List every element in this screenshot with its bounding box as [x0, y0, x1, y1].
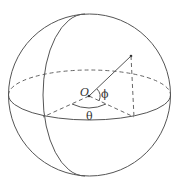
sphere-figure: O ϕ θ — [0, 0, 179, 187]
radius-line — [89, 56, 131, 96]
x-axis-radius — [43, 96, 89, 117]
meridian-front — [43, 14, 85, 176]
theta-arc — [72, 104, 106, 108]
sphere-diagram: O ϕ θ — [0, 0, 179, 187]
origin-label: O — [80, 86, 89, 99]
equator-back-dashed — [9, 70, 171, 95]
theta-label: θ — [86, 110, 93, 123]
projection-line — [131, 56, 134, 117]
phi-arc — [97, 89, 100, 101]
phi-label: ϕ — [101, 88, 109, 101]
projected-radius — [89, 96, 134, 117]
